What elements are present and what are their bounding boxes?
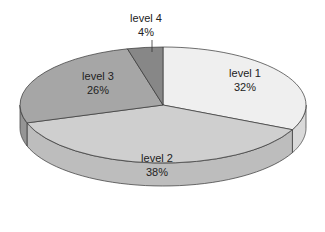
label-level-2-name: level 2 [141, 152, 173, 164]
label-level-1-value: 32% [234, 81, 256, 93]
label-level-4-value: 4% [138, 26, 154, 38]
label-level-3-name: level 3 [82, 70, 114, 82]
label-level-3-value: 26% [87, 84, 109, 96]
label-level-2-value: 38% [146, 166, 168, 178]
label-level-1-name: level 1 [229, 67, 261, 79]
label-level-4-name: level 4 [130, 12, 162, 24]
pie-chart: level 1 32% level 2 38% level 3 26% leve… [0, 0, 325, 232]
pie-slices [20, 47, 306, 163]
